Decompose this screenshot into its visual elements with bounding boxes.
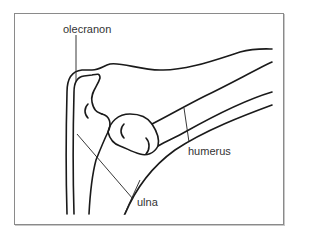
humerus-shaft-lower [158,92,272,146]
ulna-leader-line-1 [77,134,133,199]
humerus-label: humerus [188,146,231,157]
olecranon-label: olecranon [63,24,111,35]
humerus-condyle [108,114,159,155]
humerus-shaft-upper [152,62,272,124]
trochlear-notch [89,114,110,214]
ulna-inner-curve [85,104,88,118]
condyle-inner-curve [121,124,124,138]
humerus-leader-line [184,108,189,142]
ulna-posterior-edge [73,74,102,214]
condyle-trochlea-curve [146,138,149,154]
ulna-label: ulna [137,197,158,208]
